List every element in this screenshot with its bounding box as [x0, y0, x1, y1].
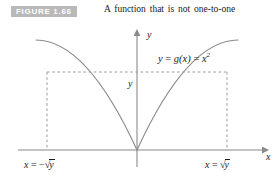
- x-axis: [18, 147, 269, 154]
- y-level-value-label: y: [128, 79, 132, 89]
- y-axis-arrow: [134, 29, 141, 36]
- figure-caption-row: FIGURE 1.66 A function that is not one-t…: [0, 0, 278, 24]
- function-label-eq1: =: [163, 53, 174, 64]
- x-positive-root-label: x = √y: [205, 159, 230, 170]
- function-label-arg: (x): [179, 53, 191, 64]
- x-axis-label: x: [266, 152, 270, 162]
- y-axis: [134, 29, 141, 167]
- x-negative-root-label: x = −√y: [24, 159, 55, 170]
- xneg-eq: =: [28, 159, 39, 170]
- y-axis-label: y: [147, 30, 151, 40]
- xpos-operand: y: [225, 159, 230, 170]
- function-label-eq2: =: [191, 53, 202, 64]
- figure-number-badge: FIGURE 1.66: [11, 6, 77, 17]
- function-equation-label: y = g(x) = x2: [158, 52, 210, 64]
- xpos-eq: =: [209, 159, 220, 170]
- figure-page: FIGURE 1.66 A function that is not one-t…: [0, 0, 278, 184]
- figure-caption-text: A function that is not one-to-one: [104, 4, 235, 14]
- function-label-exponent: 2: [207, 51, 211, 59]
- xneg-operand: y: [49, 159, 54, 170]
